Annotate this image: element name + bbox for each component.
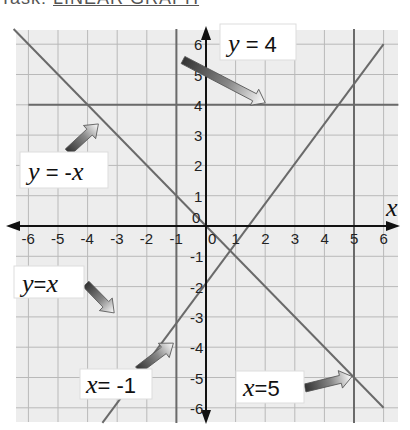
x-tick-label: 6: [380, 230, 388, 247]
y-tick-label: -6: [190, 400, 203, 417]
x-tick-label: -3: [110, 230, 123, 247]
y-tick-label: 1: [194, 188, 202, 205]
label-y-equals-neg-x: y = -x: [20, 152, 108, 188]
x-axis-label: x: [385, 193, 398, 222]
x-tick-label: 4: [320, 230, 328, 247]
y-tick-label: -4: [190, 339, 203, 356]
coordinate-plane: -6-5-4-3-2-1123456654321-1-2-3-4-5-600 y…: [0, 0, 410, 430]
y-tick-label: 6: [194, 36, 202, 53]
y-tick-label: -3: [190, 309, 203, 326]
label-x-equals-5: x=5: [236, 371, 304, 403]
y-tick-label: 3: [194, 127, 202, 144]
x-axis-left-arrow-icon: [6, 221, 20, 231]
y-tick-label: 4: [194, 97, 202, 114]
label-y-equals-x: y=x: [14, 266, 84, 298]
x-tick-label: -6: [21, 230, 34, 247]
origin-label: 0: [192, 209, 200, 226]
x-tick-label: -4: [81, 230, 94, 247]
label-x-equals-neg-1: x= -1: [80, 369, 152, 399]
y-tick-label: -1: [190, 248, 203, 265]
y-tick-label: -2: [190, 279, 203, 296]
x-tick-label: -1: [169, 230, 182, 247]
svg-text:y = -x: y = -x: [25, 157, 84, 186]
x-tick-label: 2: [261, 230, 269, 247]
y-tick-label: 2: [194, 157, 202, 174]
svg-text:y=x: y=x: [19, 269, 58, 298]
svg-text:x= -1: x= -1: [85, 370, 136, 399]
x-tick-label: 1: [232, 230, 240, 247]
x-tick-label: -5: [51, 230, 64, 247]
x-tick-label: 5: [350, 230, 358, 247]
y-tick-label: -5: [190, 370, 203, 387]
origin-label: 0: [208, 230, 216, 247]
x-tick-label: -2: [140, 230, 153, 247]
svg-text:x=5: x=5: [242, 373, 280, 402]
x-tick-label: 3: [291, 230, 299, 247]
svg-text:y = 4: y = 4: [225, 29, 277, 58]
label-y-equals-4: y = 4: [220, 24, 296, 60]
